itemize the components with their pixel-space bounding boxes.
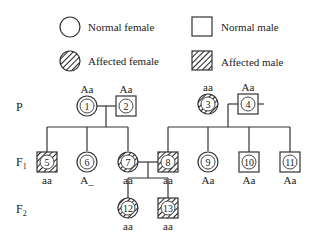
individual-7[interactable]: 7 aa xyxy=(118,152,138,186)
generation-label-p: P xyxy=(16,100,23,114)
individual-8[interactable]: 8 aa xyxy=(158,152,178,186)
svg-text:7: 7 xyxy=(126,157,131,168)
normal-male-icon xyxy=(192,17,212,36)
legend-affected-male-label: Affected male xyxy=(221,56,284,68)
individual-12[interactable]: 12 aa xyxy=(118,198,138,232)
genotype-5: aa xyxy=(42,174,52,186)
individual-5[interactable]: 5 aa xyxy=(37,152,57,186)
svg-text:11: 11 xyxy=(285,157,295,168)
individual-6[interactable]: 6 A_ xyxy=(77,152,97,186)
legend-affected-male: Affected male xyxy=(192,51,284,70)
normal-female-icon xyxy=(60,17,80,37)
genotype-8: aa xyxy=(163,174,173,186)
individual-3[interactable]: 3 aa xyxy=(198,81,218,114)
genotype-11: Aa xyxy=(284,174,297,186)
legend-normal-male-label: Normal male xyxy=(221,21,279,33)
svg-text:5: 5 xyxy=(45,157,50,168)
legend-normal-male: Normal male xyxy=(192,17,279,36)
genotype-7: aa xyxy=(123,174,133,186)
legend: Normal female Normal male Affected femal… xyxy=(60,17,284,71)
svg-text:13: 13 xyxy=(163,203,173,214)
genotype-3: aa xyxy=(203,81,213,93)
individual-4[interactable]: 4 Aa xyxy=(238,81,258,114)
genotype-1: Aa xyxy=(81,83,94,95)
individual-13[interactable]: 13 aa xyxy=(158,198,178,232)
svg-text:4: 4 xyxy=(246,99,251,110)
svg-text:6: 6 xyxy=(85,157,90,168)
individual-2[interactable]: 2 Aa xyxy=(116,83,136,116)
affected-female-icon xyxy=(60,51,80,71)
individual-9[interactable]: 9 Aa xyxy=(198,152,218,186)
genotype-2: Aa xyxy=(120,83,133,95)
genotype-6: A_ xyxy=(80,174,94,186)
affected-male-icon xyxy=(192,51,212,70)
svg-text:1: 1 xyxy=(85,101,90,112)
svg-text:2: 2 xyxy=(124,101,129,112)
genotype-9: Aa xyxy=(202,174,215,186)
individual-10[interactable]: 10 Aa xyxy=(239,152,259,186)
pedigree-diagram: Normal female Normal male Affected femal… xyxy=(0,0,315,237)
genotype-10: Aa xyxy=(243,174,256,186)
svg-text:10: 10 xyxy=(244,157,254,168)
legend-affected-female: Affected female xyxy=(60,51,159,71)
svg-text:9: 9 xyxy=(206,157,211,168)
svg-text:8: 8 xyxy=(166,157,171,168)
svg-text:12: 12 xyxy=(123,203,133,214)
genotype-4: Aa xyxy=(242,81,255,93)
individual-11[interactable]: 11 Aa xyxy=(280,152,300,186)
genotype-12: aa xyxy=(123,220,133,232)
individual-1[interactable]: 1 Aa xyxy=(77,83,97,116)
genotype-13: aa xyxy=(163,220,173,232)
svg-text:3: 3 xyxy=(206,99,211,110)
generation-label-f1: F1 xyxy=(16,155,27,171)
generation-label-f2: F2 xyxy=(16,202,27,218)
legend-normal-female: Normal female xyxy=(60,17,154,37)
legend-normal-female-label: Normal female xyxy=(88,21,154,33)
legend-affected-female-label: Affected female xyxy=(88,55,159,67)
